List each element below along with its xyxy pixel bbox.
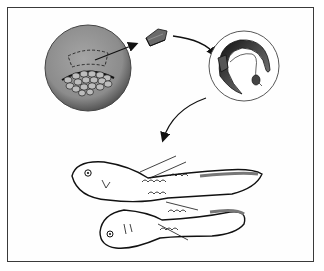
donor-embryo bbox=[45, 25, 131, 111]
host-embryo bbox=[209, 31, 279, 101]
arrow-development bbox=[163, 98, 206, 140]
arrow-graft bbox=[173, 36, 215, 55]
excised-tissue bbox=[146, 29, 167, 46]
twin-larvae bbox=[72, 156, 262, 248]
figure-illustration bbox=[0, 0, 324, 271]
